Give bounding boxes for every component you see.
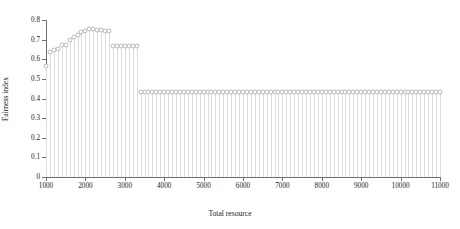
- data-stem: [74, 37, 75, 177]
- data-stem: [412, 92, 413, 177]
- x-tick: [401, 177, 402, 181]
- x-tick-label: 2000: [78, 182, 92, 190]
- data-stem: [231, 92, 232, 177]
- data-stem: [168, 92, 169, 177]
- data-stem: [196, 92, 197, 177]
- data-stem: [192, 92, 193, 177]
- data-stem: [326, 92, 327, 177]
- x-tick: [440, 177, 441, 181]
- y-tick: [42, 59, 46, 60]
- data-stem: [420, 92, 421, 177]
- y-tick-label: 0.1: [31, 153, 40, 161]
- data-stem: [294, 92, 295, 177]
- data-stem: [215, 92, 216, 177]
- data-stem: [361, 92, 362, 177]
- data-stem: [271, 92, 272, 177]
- y-tick-label: 0.5: [31, 75, 40, 83]
- y-tick: [42, 20, 46, 21]
- x-tick-label: 4000: [157, 182, 171, 190]
- x-tick: [361, 177, 362, 181]
- data-stem: [310, 92, 311, 177]
- x-tick: [243, 177, 244, 181]
- x-tick-label: 1000: [39, 182, 53, 190]
- x-tick-label: 10000: [392, 182, 410, 190]
- y-tick: [42, 40, 46, 41]
- x-axis-title: Total resource: [0, 209, 460, 218]
- data-stem: [70, 40, 71, 177]
- data-stem: [393, 92, 394, 177]
- data-stem: [385, 92, 386, 177]
- data-stem: [208, 92, 209, 177]
- data-stem: [97, 30, 98, 177]
- y-tick-label: 0.2: [31, 134, 40, 142]
- data-stem: [78, 35, 79, 177]
- data-stem: [259, 92, 260, 177]
- data-stem: [349, 92, 350, 177]
- data-stem: [401, 92, 402, 177]
- data-stem: [93, 29, 94, 177]
- data-stem: [227, 92, 228, 177]
- data-stem: [306, 92, 307, 177]
- data-stem: [428, 92, 429, 177]
- data-stem: [219, 92, 220, 177]
- data-stem: [188, 92, 189, 177]
- data-stem: [54, 50, 55, 177]
- data-stem: [204, 92, 205, 177]
- data-stem: [389, 92, 390, 177]
- data-point-marker: [438, 89, 443, 94]
- data-stem: [164, 92, 165, 177]
- data-stem: [342, 92, 343, 177]
- data-stem: [200, 92, 201, 177]
- data-stem: [365, 92, 366, 177]
- figure-container: 00.10.20.30.40.50.60.70.8 10002000300040…: [0, 0, 460, 229]
- x-tick: [204, 177, 205, 181]
- data-stem: [129, 46, 130, 177]
- data-stem: [282, 92, 283, 177]
- data-stem: [58, 49, 59, 177]
- data-point-marker: [63, 42, 68, 47]
- x-tick: [322, 177, 323, 181]
- data-point-marker: [44, 64, 49, 69]
- data-stem: [357, 92, 358, 177]
- x-tick-label: 8000: [315, 182, 329, 190]
- data-stem: [318, 92, 319, 177]
- data-stem: [263, 92, 264, 177]
- data-stem: [239, 92, 240, 177]
- data-stem: [235, 92, 236, 177]
- data-stem: [302, 92, 303, 177]
- data-stem: [152, 92, 153, 177]
- data-stem: [109, 31, 110, 177]
- x-tick-label: 7000: [275, 182, 289, 190]
- data-stem: [101, 30, 102, 177]
- data-stem: [290, 92, 291, 177]
- data-stem: [133, 46, 134, 177]
- data-stem: [345, 92, 346, 177]
- data-stem: [243, 92, 244, 177]
- data-stem: [156, 92, 157, 177]
- data-stem: [117, 46, 118, 177]
- data-stem: [334, 92, 335, 177]
- data-stem: [405, 92, 406, 177]
- data-stem: [50, 52, 51, 177]
- x-tick: [282, 177, 283, 181]
- data-stem: [176, 92, 177, 177]
- data-stem: [89, 29, 90, 177]
- data-stem: [251, 92, 252, 177]
- data-stem: [46, 66, 47, 177]
- x-tick: [164, 177, 165, 181]
- data-stem: [184, 92, 185, 177]
- data-stem: [66, 45, 67, 177]
- data-stem: [330, 92, 331, 177]
- y-tick-label: 0.6: [31, 55, 40, 63]
- x-tick: [125, 177, 126, 181]
- y-tick-label: 0.4: [31, 95, 40, 103]
- data-stem: [369, 92, 370, 177]
- data-stem: [278, 92, 279, 177]
- y-axis-title: Fairness index: [1, 77, 10, 121]
- data-stem: [223, 92, 224, 177]
- data-stem: [105, 31, 106, 177]
- data-stem: [381, 92, 382, 177]
- data-stem: [211, 92, 212, 177]
- data-stem: [286, 92, 287, 177]
- data-stem: [275, 92, 276, 177]
